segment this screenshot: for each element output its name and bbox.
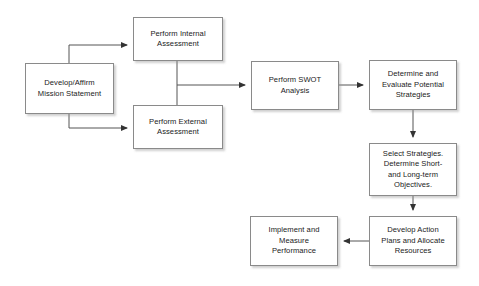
node-label: Implement and Measure Performance: [251, 225, 337, 257]
node-perform-swot-analysis[interactable]: Perform SWOT Analysis: [251, 61, 339, 110]
node-perform-external-assessment[interactable]: Perform External Assessment: [133, 105, 223, 149]
node-label: Determine and Evaluate Potential Strateg…: [370, 69, 456, 101]
node-develop-action-plans-and-allocate-resources[interactable]: Develop Action Plans and Allocate Resour…: [369, 216, 457, 266]
node-label: Perform Internal Assessment: [134, 29, 222, 50]
node-label: Select Strategies. Determine Short- and …: [370, 149, 456, 191]
node-implement-and-measure-performance[interactable]: Implement and Measure Performance: [250, 216, 338, 266]
connector-mission-to-internal: [69, 45, 127, 63]
flowchart-canvas: Develop/Affirm Mission Statement Perform…: [0, 0, 479, 286]
node-label: Perform SWOT Analysis: [252, 75, 338, 96]
node-label: Develop/Affirm Mission Statement: [26, 78, 113, 99]
connector-mission-to-external: [69, 114, 127, 128]
node-perform-internal-assessment[interactable]: Perform Internal Assessment: [133, 17, 223, 61]
node-select-strategies-determine-objectives[interactable]: Select Strategies. Determine Short- and …: [369, 143, 457, 196]
node-develop-affirm-mission-statement[interactable]: Develop/Affirm Mission Statement: [25, 63, 114, 114]
node-determine-and-evaluate-potential-strategies[interactable]: Determine and Evaluate Potential Strateg…: [369, 60, 457, 110]
node-label: Perform External Assessment: [134, 117, 222, 138]
node-label: Develop Action Plans and Allocate Resour…: [370, 225, 456, 257]
